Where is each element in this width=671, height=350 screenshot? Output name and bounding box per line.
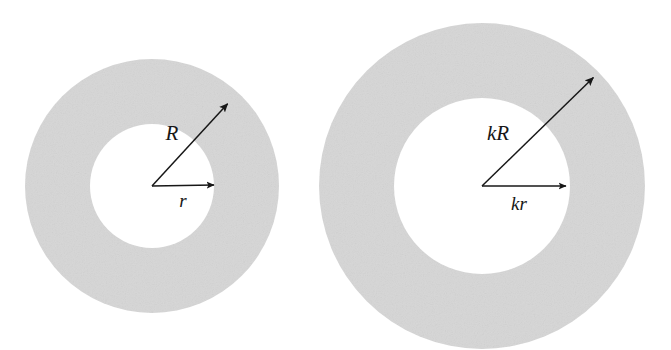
figure-container: R r kR kr (0, 0, 671, 350)
right-annulus-ring (0, 0, 671, 350)
label-inner-radius-kr: kr (511, 193, 527, 214)
right-annulus-panel: kR kr (0, 0, 671, 350)
annulus-figure: R r kR kr (0, 0, 671, 350)
label-outer-radius-kR: kR (487, 121, 509, 145)
